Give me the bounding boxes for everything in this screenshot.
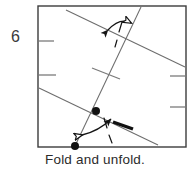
edge-reference-dot: [71, 142, 79, 150]
crease-pattern-diagram: [0, 0, 190, 174]
figure-caption: Fold and unfold.: [0, 152, 190, 167]
intersection-dot: [92, 107, 100, 115]
